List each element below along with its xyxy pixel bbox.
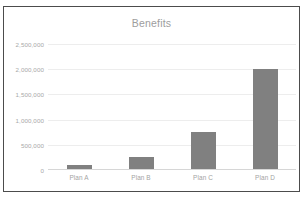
x-axis-line [48,169,296,170]
x-category-label: Plan B [111,174,171,181]
x-category-label: Plan C [173,174,233,181]
gridline [48,44,296,45]
y-tick-label: 500,000 [21,141,44,148]
chart-frame: Benefits 0500,0001,000,0001,500,0002,000… [3,6,300,192]
y-tick-label: 0 [40,167,44,174]
chart-title: Benefits [4,17,299,29]
y-tick-label: 1,000,000 [16,116,44,123]
y-tick-label: 2,000,000 [16,66,44,73]
x-category-label: Plan A [49,174,109,181]
y-tick-label: 2,500,000 [16,41,44,48]
y-tick-label: 1,500,000 [16,91,44,98]
chart-canvas: Benefits 0500,0001,000,0001,500,0002,000… [4,7,299,191]
x-axis-labels: Plan APlan BPlan CPlan D [48,174,296,188]
bar [253,69,278,170]
plot-area [48,44,296,170]
y-axis-labels: 0500,0001,000,0001,500,0002,000,0002,500… [8,44,44,170]
x-category-label: Plan D [235,174,295,181]
bar [191,132,216,170]
